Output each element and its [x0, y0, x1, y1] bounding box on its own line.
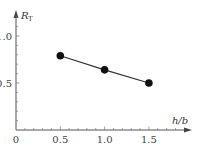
data-point [145, 79, 153, 87]
x-tick-label: 0.5 [52, 134, 68, 145]
y-tick-label: 1.0 [0, 31, 12, 42]
x-tick-label: 1.5 [141, 134, 157, 145]
data-point [101, 66, 109, 74]
plot-area [57, 52, 153, 87]
x-axis-label: h/b [172, 115, 188, 126]
x-tick-label: 0 [13, 134, 19, 145]
data-point [57, 52, 65, 60]
y-axis-arrow-icon [14, 10, 19, 18]
x-axis-arrow-icon [184, 128, 192, 133]
y-tick-label: 0.5 [0, 78, 12, 89]
axis-ticks [16, 17, 175, 130]
line-chart: 0 0.5 1.0 1.5 0.5 1.0 h/b R T [0, 0, 200, 163]
x-tick-label: 1.0 [97, 134, 113, 145]
y-axis-label-subscript: T [28, 15, 33, 23]
